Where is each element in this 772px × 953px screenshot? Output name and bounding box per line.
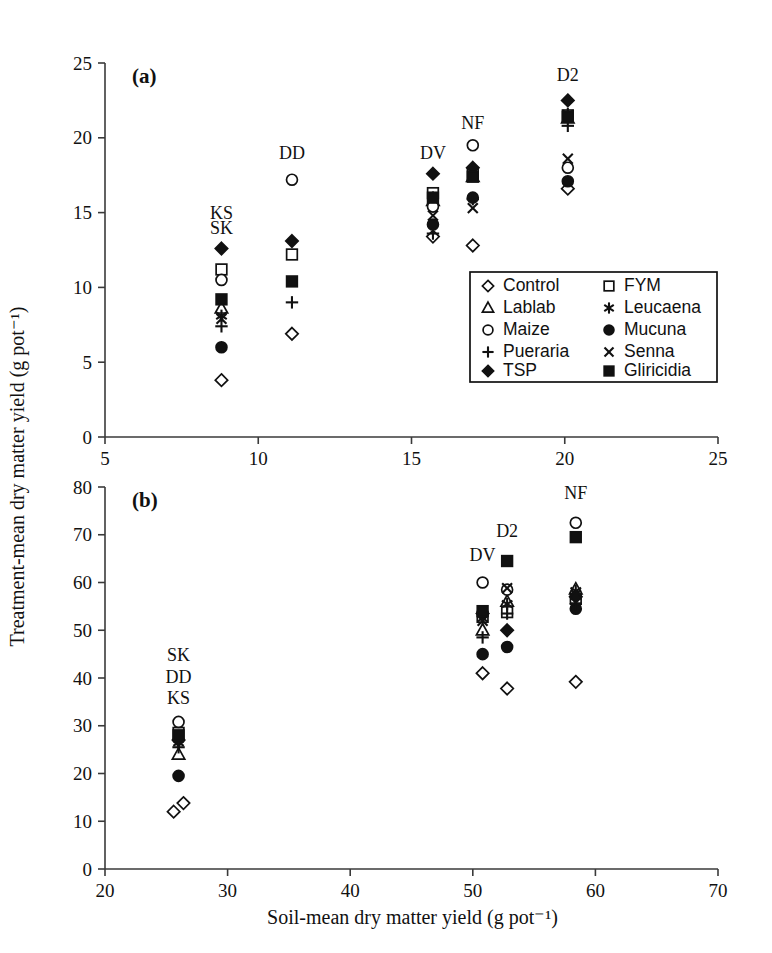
data-point-gliricidia	[287, 276, 298, 287]
series-gliricidia	[173, 532, 581, 741]
legend-label-control: Control	[503, 275, 559, 295]
site-annotation: NF	[461, 113, 484, 133]
site-annotation: KS	[167, 688, 190, 708]
data-point-maize	[287, 174, 298, 185]
panel-label-a: (a)	[132, 64, 157, 88]
x-tick-label: 10	[249, 448, 268, 469]
data-point-tsp	[562, 94, 574, 106]
data-point-maize	[467, 140, 478, 151]
scatter-plot-svg: 0510152025510152025(a)KSSKDDDVNFD2 01020…	[0, 0, 772, 953]
x-tick-label: 50	[463, 880, 482, 901]
panel-a: 0510152025510152025(a)KSSKDDDVNFD2	[73, 53, 728, 470]
legend-label-gliricidia: Gliricidia	[624, 360, 691, 380]
data-point-control	[570, 676, 582, 688]
legend-label-leucaena: Leucaena	[624, 297, 701, 317]
legend-label-mucuna: Mucuna	[624, 319, 687, 339]
legend-label-senna: Senna	[624, 341, 675, 361]
x-tick-label: 60	[586, 880, 605, 901]
legend[interactable]: ControlFYMLablabLeucaenaMaizeMucunaPuera…	[470, 272, 717, 382]
site-annotation: SK	[210, 218, 233, 238]
data-point-gliricidia	[570, 532, 581, 543]
data-point-maize	[570, 517, 581, 528]
x-tick-label: 15	[402, 448, 421, 469]
series-tsp	[215, 94, 574, 255]
panel-b: 01020304050607080203040506070(b)SKDDKSDV…	[73, 477, 728, 902]
series-senna	[174, 583, 581, 742]
y-tick-label: 0	[83, 859, 93, 880]
data-point-maize	[477, 577, 488, 588]
data-point-tsp	[501, 624, 513, 636]
series-fym	[216, 110, 573, 275]
y-tick-label: 30	[73, 715, 92, 736]
series-maize	[216, 140, 573, 286]
data-point-tsp	[427, 168, 439, 180]
legend-label-lablab: Lablab	[503, 297, 556, 317]
series-lablab	[172, 583, 582, 759]
legend-marker-fym	[604, 281, 614, 291]
x-tick-label: 40	[341, 880, 360, 901]
data-point-control	[215, 374, 227, 386]
data-point-mucuna	[502, 642, 513, 653]
series-pueraria	[172, 598, 582, 754]
data-point-control	[177, 797, 189, 809]
y-tick-label: 10	[73, 277, 92, 298]
site-annotation: D2	[496, 521, 518, 541]
y-tick-label: 80	[73, 477, 92, 498]
y-tick-label: 50	[73, 620, 92, 641]
site-annotation: DD	[166, 667, 192, 687]
site-annotation: DV	[470, 545, 496, 565]
y-tick-label: 60	[73, 572, 92, 593]
data-point-maize	[173, 716, 184, 727]
legend-label-tsp: TSP	[503, 360, 537, 380]
x-tick-label: 30	[218, 880, 237, 901]
legend-label-maize: Maize	[503, 319, 550, 339]
data-point-control	[501, 682, 513, 694]
data-point-gliricidia	[502, 556, 513, 567]
x-tick-label: 20	[96, 880, 115, 901]
data-point-gliricidia	[467, 171, 478, 182]
y-tick-label: 25	[73, 53, 92, 74]
series-tsp	[172, 591, 582, 747]
data-point-mucuna	[477, 649, 488, 660]
y-tick-label: 15	[73, 202, 92, 223]
panel-label-b: (b)	[132, 488, 158, 512]
data-point-maize	[216, 274, 227, 285]
data-point-control	[476, 667, 488, 679]
series-fym	[173, 592, 581, 738]
site-annotation: SK	[167, 645, 190, 665]
series-leucaena	[173, 585, 581, 749]
data-point-tsp	[286, 235, 298, 247]
site-annotation: NF	[564, 483, 587, 503]
data-point-mucuna	[173, 770, 184, 781]
legend-label-pueraria: Pueraria	[503, 341, 569, 361]
series-mucuna	[173, 603, 581, 781]
data-points-b	[167, 517, 582, 818]
x-axis-label: Soil-mean dry matter yield (g pot⁻¹)	[105, 905, 720, 929]
y-tick-label: 0	[83, 427, 93, 448]
data-point-mucuna	[216, 342, 227, 353]
legend-marker-mucuna	[604, 325, 614, 335]
site-annotation: DV	[420, 143, 446, 163]
x-tick-label: 5	[100, 448, 110, 469]
y-tick-label: 20	[73, 127, 92, 148]
legend-marker-gliricidia	[604, 366, 614, 376]
legend-label-fym: FYM	[624, 275, 661, 295]
series-control	[167, 667, 582, 818]
x-tick-label: 70	[709, 880, 728, 901]
data-point-fym	[287, 249, 298, 260]
figure-container: Treatment-mean dry matter yield (g pot⁻¹…	[0, 0, 772, 953]
data-point-gliricidia	[477, 606, 488, 617]
data-point-gliricidia	[173, 730, 184, 741]
data-point-fym	[216, 264, 227, 275]
x-tick-label: 25	[709, 448, 728, 469]
data-point-gliricidia	[216, 294, 227, 305]
data-point-pueraria	[286, 296, 298, 308]
x-tick-label: 20	[555, 448, 574, 469]
data-point-mucuna	[562, 176, 573, 187]
y-tick-label: 20	[73, 763, 92, 784]
data-point-gliricidia	[428, 192, 439, 203]
legend-marker-maize	[483, 325, 493, 335]
y-tick-label: 10	[73, 811, 92, 832]
data-point-control	[167, 806, 179, 818]
y-tick-label: 40	[73, 668, 92, 689]
